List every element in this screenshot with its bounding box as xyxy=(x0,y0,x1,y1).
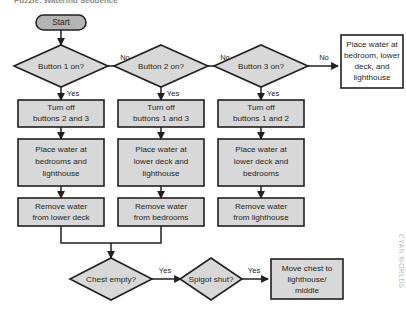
start-label: Start xyxy=(52,17,70,27)
node-outcome-box[interactable]: Place water at bedroom, lower deck, and … xyxy=(341,35,403,88)
col1-step2-line2: bedrooms and xyxy=(35,157,87,166)
node-col3-step1[interactable]: Turn off buttons 1 and 2 xyxy=(218,100,304,127)
decision-button1-label: Button 1 on? xyxy=(38,62,84,71)
node-col1-step1[interactable]: Turn off buttons 2 and 3 xyxy=(18,100,104,127)
flowchart-canvas: Puzzle: Watering Sequence xyxy=(0,0,406,315)
col3-step2-line1: Place water at xyxy=(235,145,287,154)
col3-step1-line1: Turn off xyxy=(247,103,275,112)
label-button3-yes: Yes xyxy=(267,89,280,98)
col1-step1-line1: Turn off xyxy=(47,103,75,112)
col3-step1-line2: buttons 1 and 2 xyxy=(233,114,289,123)
node-col2-step2[interactable]: Place water at lower deck and lighthouse xyxy=(118,139,204,186)
final-line-1: Move chest to xyxy=(282,264,333,273)
col1-step2-line1: Place water at xyxy=(35,145,87,154)
node-decision-spigot[interactable]: Spigot shut? xyxy=(180,258,242,300)
node-col3-step3[interactable]: Remove water from lighthouse xyxy=(218,198,304,226)
col2-step2-line1: Place water at xyxy=(135,145,187,154)
node-decision-chest[interactable]: Chest empty? xyxy=(70,258,152,300)
col1-step1-line2: buttons 2 and 3 xyxy=(33,114,89,123)
col1-step3-line1: Remove water xyxy=(35,202,87,211)
node-decision-button3[interactable]: Button 3 on? xyxy=(214,45,308,87)
node-col1-step3[interactable]: Remove water from lower deck xyxy=(18,198,104,226)
outcome-line-2: bedroom, lower xyxy=(344,51,400,60)
col3-step3-line1: Remove water xyxy=(235,202,287,211)
node-col2-step3[interactable]: Remove water from bedrooms xyxy=(118,198,204,226)
final-line-3: middle xyxy=(295,286,319,295)
cyan-worlds-watermark: CYAN WORLDS xyxy=(398,234,405,289)
outcome-line-4: lighthouse xyxy=(354,73,391,82)
decision-button2-label: Button 2 on? xyxy=(138,62,184,71)
col2-step1-line2: buttons 1 and 3 xyxy=(133,114,189,123)
outcome-line-3: deck, and xyxy=(354,62,389,71)
node-final-box[interactable]: Move chest to lighthouse/ middle xyxy=(271,259,343,299)
col1-step2-line3: lighthouse xyxy=(43,169,80,178)
node-start[interactable]: Start xyxy=(36,15,86,30)
label-chest-yes: Yes xyxy=(159,266,172,275)
decision-spigot-label: Spigot shut? xyxy=(189,275,234,284)
col3-step3-line2: from lighthouse xyxy=(233,213,289,222)
node-col1-step2[interactable]: Place water at bedrooms and lighthouse xyxy=(18,139,104,186)
col1-step3-line2: from lower deck xyxy=(32,213,90,222)
outcome-line-1: Place water at xyxy=(346,40,398,49)
decision-chest-label: Chest empty? xyxy=(86,275,136,284)
decision-button3-label: Button 3 on? xyxy=(238,62,284,71)
col2-step2-line3: lighthouse xyxy=(143,169,180,178)
col2-step2-line2: lower deck and xyxy=(134,157,188,166)
node-decision-button1[interactable]: Button 1 on? xyxy=(14,45,108,87)
edge-merge-col1-col2 xyxy=(61,226,161,243)
col2-step3-line1: Remove water xyxy=(135,202,187,211)
label-button2-yes: Yes xyxy=(167,89,180,98)
col3-step2-line2: lower deck and xyxy=(234,157,288,166)
label-button3-no: No xyxy=(319,53,329,62)
final-line-2: lighthouse/ xyxy=(287,275,327,284)
label-spigot-yes: Yes xyxy=(248,266,261,275)
node-decision-button2[interactable]: Button 2 on? xyxy=(114,45,208,87)
node-col3-step2[interactable]: Place water at lower deck and bedrooms xyxy=(218,139,304,186)
col2-step3-line2: from bedrooms xyxy=(134,213,188,222)
col2-step1-line1: Turn off xyxy=(147,103,175,112)
flowchart-svg: Start Button 1 on? No Yes Button 2 on? N… xyxy=(0,0,406,315)
node-col2-step1[interactable]: Turn off buttons 1 and 3 xyxy=(118,100,204,127)
label-button1-yes: Yes xyxy=(67,89,80,98)
col3-step2-line3: bedrooms xyxy=(243,169,279,178)
